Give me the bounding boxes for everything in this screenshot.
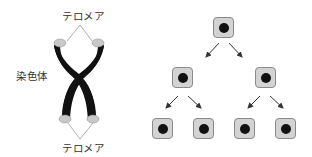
- nucleus-icon: [281, 124, 291, 134]
- cell-level-3-3: [234, 118, 255, 139]
- arrow-icon: [166, 96, 178, 108]
- arrow-icon: [248, 96, 260, 108]
- cell-level-1: [213, 17, 234, 38]
- cell-level-3-4: [275, 118, 296, 139]
- telomere-top-label: テロメア: [62, 10, 104, 22]
- cell-level-3-2: [193, 118, 214, 139]
- nucleus-icon: [158, 124, 168, 134]
- telomere-cap-bottom-left: [59, 115, 71, 123]
- arrow-icon: [188, 96, 201, 108]
- telomere-cap-top-right: [92, 39, 104, 47]
- telomere-bottom-label: テロメア: [62, 142, 104, 154]
- nucleus-icon: [240, 124, 250, 134]
- arrow-icon: [206, 43, 219, 57]
- chromosome-icon: [54, 39, 104, 123]
- telomere-cap-bottom-right: [87, 115, 99, 123]
- chromosome-label: 染色体: [16, 70, 48, 82]
- arrow-icon: [270, 96, 283, 108]
- cell-level-3-1: [152, 118, 173, 139]
- arrow-icon: [229, 43, 242, 57]
- nucleus-icon: [261, 73, 271, 83]
- cell-level-2-right: [255, 67, 276, 88]
- nucleus-icon: [219, 23, 229, 33]
- telomere-cap-top-left: [54, 39, 66, 47]
- nucleus-icon: [178, 73, 188, 83]
- nucleus-icon: [199, 124, 209, 134]
- cell-level-2-left: [172, 67, 193, 88]
